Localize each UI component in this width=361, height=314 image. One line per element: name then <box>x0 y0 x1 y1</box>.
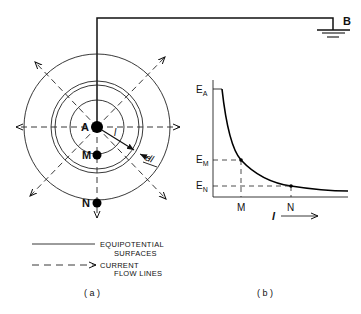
potential-curve <box>222 89 348 191</box>
point-a <box>91 121 103 133</box>
caption-a: ( a ) <box>84 288 100 298</box>
panel-b: EA EM EN M N l <box>196 80 348 222</box>
point-m <box>93 151 102 160</box>
x-label-m: M <box>237 202 245 213</box>
point-n-graph <box>289 184 293 188</box>
y-label-en: EN <box>196 180 208 193</box>
wire-a-to-b <box>97 18 333 127</box>
legend-equipotential-2: SURFACES <box>114 249 157 258</box>
point-m-graph <box>239 158 243 162</box>
diagram-canvas: B l dl A M N <box>0 0 361 314</box>
x-label-n: N <box>287 202 294 213</box>
point-n <box>93 199 102 208</box>
point-a-label: A <box>81 121 89 133</box>
point-n-label: N <box>82 197 90 209</box>
legend-current-2: FLOW LINES <box>114 269 162 278</box>
caption-b: ( b ) <box>257 288 273 298</box>
guide-lines <box>213 160 291 197</box>
y-label-ea: EA <box>196 84 208 97</box>
radius-label: l <box>114 127 117 138</box>
point-m-label: M <box>82 149 91 161</box>
ground-icon <box>317 30 350 37</box>
legend-equipotential-1: EQUIPOTENTIAL <box>100 240 164 249</box>
legend: EQUIPOTENTIAL SURFACES CURRENT FLOW LINE… <box>32 240 164 278</box>
x-axis-label: l <box>272 210 276 222</box>
y-label-em: EM <box>196 154 209 167</box>
electrode-b-label: B <box>343 15 351 27</box>
